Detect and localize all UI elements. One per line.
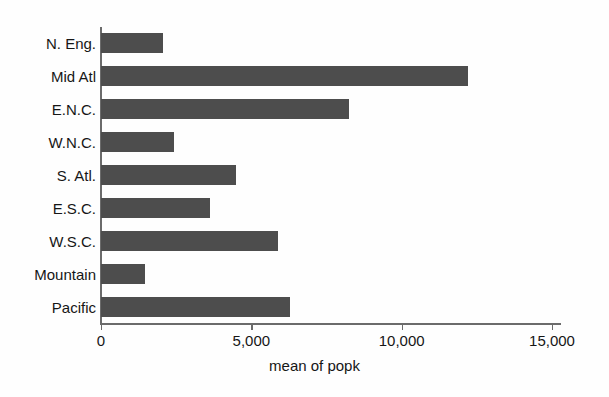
category-label: S. Atl. xyxy=(57,168,96,183)
bar xyxy=(101,165,236,185)
x-axis-title-text: mean of popk xyxy=(269,357,360,374)
x-axis-tick-label: 15,000 xyxy=(529,333,575,348)
x-axis-tick-label: 0 xyxy=(97,333,105,348)
bar xyxy=(101,297,290,317)
bar xyxy=(101,99,349,119)
bar xyxy=(101,198,210,218)
x-axis-tick xyxy=(101,323,102,330)
x-axis-tick xyxy=(552,323,553,330)
category-label: Mid Atl xyxy=(51,69,96,84)
category-label: Pacific xyxy=(52,300,96,315)
bar xyxy=(101,264,145,284)
bar-chart: N. Eng.Mid AtlE.N.C.W.N.C.S. Atl.E.S.C.W… xyxy=(0,0,609,397)
x-axis-tick xyxy=(251,323,252,330)
x-axis-tick xyxy=(402,323,403,330)
bar xyxy=(101,231,278,251)
category-label: Mountain xyxy=(34,267,96,282)
x-axis-title: mean of popk xyxy=(0,357,609,374)
x-axis-line xyxy=(100,323,561,325)
x-axis-tick-label: 5,000 xyxy=(233,333,271,348)
bar xyxy=(101,132,174,152)
x-axis-tick-label: 10,000 xyxy=(379,333,425,348)
category-label: W.N.C. xyxy=(49,135,97,150)
category-label: E.N.C. xyxy=(52,102,96,117)
bar xyxy=(101,66,468,86)
bar xyxy=(101,33,163,53)
category-label: E.S.C. xyxy=(53,201,96,216)
category-label: N. Eng. xyxy=(46,36,96,51)
category-label: W.S.C. xyxy=(49,234,96,249)
